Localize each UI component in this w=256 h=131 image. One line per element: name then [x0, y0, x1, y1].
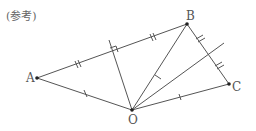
segment-AB	[37, 24, 187, 78]
perp-bisector-AB	[109, 40, 132, 110]
label-A: A	[26, 72, 35, 84]
geometry-diagram	[0, 0, 256, 131]
perp-bisector-BC	[132, 43, 224, 110]
point-O	[130, 108, 134, 112]
label-O: O	[128, 114, 138, 126]
segment-BC	[187, 24, 229, 84]
point-C	[227, 82, 231, 86]
point-A	[35, 76, 39, 80]
segment-AO	[37, 78, 132, 110]
label-C: C	[232, 81, 241, 93]
label-B: B	[186, 10, 195, 22]
